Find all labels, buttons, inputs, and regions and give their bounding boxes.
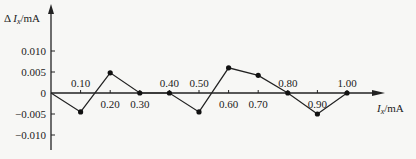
y-axis-arrow-icon xyxy=(48,4,54,14)
data-point xyxy=(78,109,83,114)
x-tick-label: 1.00 xyxy=(337,77,357,89)
y-tick-label: 0.005 xyxy=(21,66,46,78)
data-point xyxy=(344,90,349,95)
x-tick-label: 0.40 xyxy=(160,77,180,89)
data-point xyxy=(226,65,231,70)
y-axis-label: Δ Ix/mA xyxy=(4,12,40,26)
y-tick-label: 0 xyxy=(41,87,47,99)
data-point xyxy=(196,109,201,114)
x-tick-label: 0.80 xyxy=(278,77,298,89)
x-tick-label: 0.70 xyxy=(249,98,269,110)
y-tick-label: −0.010 xyxy=(15,129,46,141)
x-tick-label: 0.50 xyxy=(189,77,209,89)
y-tick-label: −0.005 xyxy=(15,108,46,120)
x-tick-label: 0.20 xyxy=(101,98,121,110)
data-point xyxy=(167,90,172,95)
y-tick-label: 0.010 xyxy=(21,45,46,57)
data-point xyxy=(137,90,142,95)
x-tick-label: 0.60 xyxy=(219,98,239,110)
x-tick-label: 0.30 xyxy=(130,98,150,110)
x-axis-arrow-icon xyxy=(372,90,385,96)
data-point xyxy=(315,111,320,116)
error-line-chart: 0.0100.0050−0.005−0.0100.100.200.300.400… xyxy=(0,0,416,159)
data-point xyxy=(285,90,290,95)
data-point xyxy=(108,70,113,75)
x-tick-label: 0.10 xyxy=(71,77,91,89)
data-point xyxy=(256,73,261,78)
x-axis-label: Ix/mA xyxy=(376,102,404,116)
